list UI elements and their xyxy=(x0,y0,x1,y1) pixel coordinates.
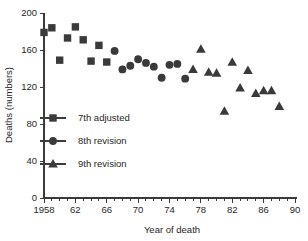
data-point xyxy=(103,58,110,65)
data-point xyxy=(119,66,127,74)
data-point xyxy=(126,62,134,70)
chart-legend: 7th adjusted8th revision9th revision xyxy=(40,112,130,169)
x-axis-tick-label: 78 xyxy=(196,204,207,215)
data-series-layer xyxy=(40,23,284,114)
data-point xyxy=(166,61,174,69)
x-axis-tick-label: 90 xyxy=(290,204,301,215)
legend-item-square: 7th adjusted xyxy=(40,112,130,123)
x-axis-title: Year of death xyxy=(144,224,200,235)
data-point xyxy=(181,75,189,83)
data-point xyxy=(243,65,253,73)
y-axis-tick-label: 40 xyxy=(26,155,37,166)
x-axis-tick-label: 82 xyxy=(227,204,238,215)
data-point xyxy=(72,23,79,30)
legend-sample-marker xyxy=(48,159,58,167)
y-axis-tick-label: 80 xyxy=(26,118,37,129)
y-axis-tick-label: 120 xyxy=(21,81,37,92)
data-point xyxy=(267,86,277,94)
x-axis-tick-label: 66 xyxy=(101,204,112,215)
chart-container: 04080120160200 19586266707478828690 7th … xyxy=(0,0,308,241)
data-point xyxy=(227,57,237,65)
legend-sample-marker xyxy=(49,114,56,121)
data-point xyxy=(212,68,222,76)
data-point xyxy=(142,59,150,67)
x-axis-tick-label: 62 xyxy=(70,204,81,215)
y-axis-title: Deaths (numbers) xyxy=(3,67,14,143)
data-point xyxy=(158,74,166,82)
y-axis-tick-label: 0 xyxy=(32,192,37,203)
data-point xyxy=(95,42,102,49)
x-axis-tick-label: 86 xyxy=(258,204,269,215)
data-point xyxy=(87,57,94,64)
data-point xyxy=(150,63,158,71)
data-point xyxy=(80,36,87,43)
data-point xyxy=(204,67,214,75)
data-point xyxy=(48,24,55,31)
y-axis-tick-label: 160 xyxy=(21,44,37,55)
data-point xyxy=(134,55,142,63)
legend-label: 7th adjusted xyxy=(78,112,130,123)
data-point xyxy=(64,34,71,41)
x-axis-tick-label: 1958 xyxy=(33,204,54,215)
legend-sample-marker xyxy=(49,137,57,145)
series-triangle xyxy=(188,44,284,114)
legend-label: 8th revision xyxy=(78,135,127,146)
y-axis-tick-label: 200 xyxy=(21,7,37,18)
data-point xyxy=(275,102,285,110)
data-point xyxy=(173,60,181,68)
x-axis: 19586266707478828690 xyxy=(33,198,300,215)
data-point xyxy=(235,83,245,91)
x-axis-tick-label: 70 xyxy=(133,204,144,215)
data-point xyxy=(111,47,119,55)
data-point xyxy=(259,86,269,94)
legend-item-triangle: 9th revision xyxy=(40,158,127,169)
deaths-by-year-scatter-chart: 04080120160200 19586266707478828690 7th … xyxy=(0,0,308,241)
data-point xyxy=(188,65,198,73)
data-point xyxy=(40,29,47,36)
data-point xyxy=(56,56,63,63)
data-point xyxy=(251,89,261,97)
legend-item-circle: 8th revision xyxy=(40,135,127,146)
series-circle xyxy=(111,47,189,83)
y-axis: 04080120160200 xyxy=(21,7,44,203)
legend-label: 9th revision xyxy=(78,158,127,169)
data-point xyxy=(220,106,230,114)
x-axis-tick-label: 74 xyxy=(164,204,175,215)
data-point xyxy=(196,44,206,52)
series-square xyxy=(40,23,110,66)
